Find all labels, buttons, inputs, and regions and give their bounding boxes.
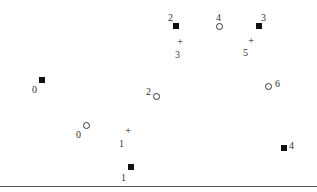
plus-marker-icon: + — [124, 125, 132, 136]
circle-marker-icon — [83, 122, 90, 129]
circle-marker-icon — [265, 83, 272, 90]
point-label: 3 — [261, 13, 266, 23]
point-label: 2 — [168, 13, 173, 23]
point-label: 1 — [121, 173, 126, 183]
point-label: 2 — [146, 87, 151, 97]
point-label: 4 — [289, 141, 294, 151]
circle-marker-icon — [153, 93, 160, 100]
square-marker-icon — [256, 23, 262, 29]
plus-marker-icon: + — [176, 36, 184, 47]
point-label: 6 — [275, 79, 280, 89]
point-label: 0 — [76, 130, 81, 140]
square-marker-icon — [39, 77, 45, 83]
point-label: 0 — [32, 85, 37, 95]
circle-marker-icon — [216, 23, 223, 30]
point-label: 5 — [243, 48, 248, 58]
point-label: 4 — [216, 13, 221, 23]
square-marker-icon — [281, 145, 287, 151]
point-label: 3 — [175, 50, 180, 60]
x-axis-line — [0, 186, 317, 187]
point-label: 1 — [119, 139, 124, 149]
square-marker-icon — [173, 23, 179, 29]
plus-marker-icon: + — [247, 35, 255, 46]
scatter-diagram: 243+3+50260+141 — [0, 0, 317, 192]
square-marker-icon — [128, 164, 134, 170]
